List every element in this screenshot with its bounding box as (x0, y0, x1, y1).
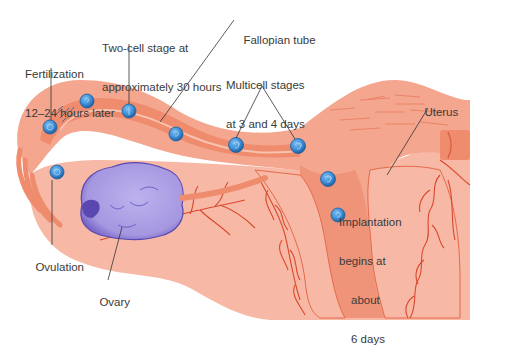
label-ovulation: Ovulation (29, 248, 84, 274)
label-multicell-line2: at 3 and 4 days (226, 118, 302, 131)
label-ovary-text: Ovary (99, 296, 130, 308)
ovary (81, 163, 183, 240)
label-implantation: Implantation begins at about 6 days (339, 190, 402, 349)
label-multicell-line1: Multicell stages (226, 79, 302, 92)
label-implantation-line3: about (339, 294, 402, 307)
embryo-cleavage (169, 127, 183, 141)
label-two-cell-line2: approximately 30 hours (102, 81, 222, 94)
label-two-cell-stage: Two-cell stage at approximately 30 hours (102, 16, 222, 107)
label-uterus-text: Uterus (424, 106, 458, 118)
label-implantation-line4: 6 days (339, 333, 402, 346)
label-uterus: Uterus (418, 93, 458, 119)
label-fertilization-line2: 12–24 hours later (25, 107, 115, 120)
label-implantation-line1: Implantation (339, 216, 402, 229)
label-ovary: Ovary (93, 283, 130, 309)
embryo-ovulation (50, 165, 64, 179)
label-two-cell-line1: Two-cell stage at (102, 42, 222, 55)
label-ovulation-text: Ovulation (35, 261, 84, 273)
label-multicell-stages: Multicell stages at 3 and 4 days (226, 53, 302, 144)
embryo-morula (321, 172, 336, 187)
label-fallopian-tube: Fallopian tube (237, 21, 316, 47)
label-implantation-line2: begins at (339, 255, 402, 268)
label-fallopian-tube-text: Fallopian tube (243, 34, 315, 46)
